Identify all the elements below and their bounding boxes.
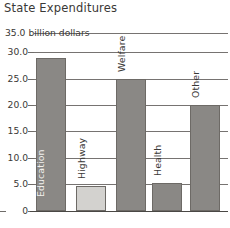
- bar-label-welfare: Welfare: [116, 36, 127, 72]
- y-tick-label-10: 10.0: [2, 152, 28, 163]
- bar-highway-fill: [76, 186, 106, 211]
- bar-chart: State Expenditures 35.0 billion dollars …: [0, 0, 230, 228]
- x-axis-baseline: [30, 211, 228, 212]
- y-tick-label-20: 20.0: [2, 99, 28, 110]
- y-tick-mark-30: [28, 52, 34, 53]
- y-tick-label-25: 25.0: [2, 73, 28, 84]
- y-tick-mark-10: [28, 158, 34, 159]
- y-axis-top-value: 35.0: [5, 27, 25, 38]
- y-tick-mark-25: [28, 79, 34, 80]
- y-tick-mark-5: [28, 184, 34, 185]
- y-tick-mark-15: [28, 131, 34, 132]
- y-axis-units-text: billion dollars: [28, 27, 89, 38]
- y-tick-mark-20: [28, 105, 34, 106]
- gridline-30: [34, 52, 228, 53]
- bar-welfare-fill: [116, 79, 146, 211]
- y-axis-units-label: 35.0 billion dollars: [5, 27, 90, 38]
- y-tick-label-15: 15.0: [2, 125, 28, 136]
- bar-label-health: Health: [152, 145, 163, 176]
- bar-other-fill: [190, 105, 220, 211]
- bar-other[interactable]: Other: [190, 105, 220, 211]
- bar-health[interactable]: Health: [152, 183, 182, 211]
- bar-highway[interactable]: Highway: [76, 186, 106, 211]
- plot-area: 35.0 billion dollars 30.0 25.0 20.0 15.0…: [0, 0, 230, 228]
- y-tick-label-30: 30.0: [2, 46, 28, 57]
- y-axis-origin-dash: [0, 211, 6, 212]
- bar-education[interactable]: Education: [36, 58, 66, 211]
- bar-welfare[interactable]: Welfare: [116, 79, 146, 211]
- bar-label-highway: Highway: [76, 138, 87, 179]
- bar-health-fill: [152, 183, 182, 211]
- bar-label-other: Other: [190, 71, 201, 98]
- y-tick-label-5: 5.0: [2, 178, 28, 189]
- bar-label-education: Education: [35, 149, 46, 197]
